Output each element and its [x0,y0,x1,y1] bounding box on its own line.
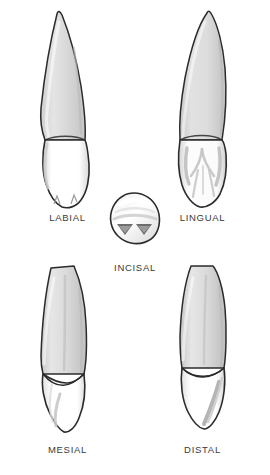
tooth-mesial-icon [0,272,135,447]
tooth-view-lingual [135,8,270,213]
tooth-incisal-icon [100,188,170,252]
view-label-distal: DISTAL [135,444,270,455]
view-label-mesial: MESIAL [0,444,135,455]
tooth-anatomy-figure: LABIAL [0,0,270,475]
tooth-lingual-icon [135,8,270,213]
tooth-labial-icon [0,8,135,213]
tooth-view-labial [0,8,135,213]
tooth-view-distal [135,272,270,447]
tooth-distal-icon [135,272,270,447]
tooth-view-mesial [0,272,135,447]
tooth-view-incisal [100,188,170,252]
